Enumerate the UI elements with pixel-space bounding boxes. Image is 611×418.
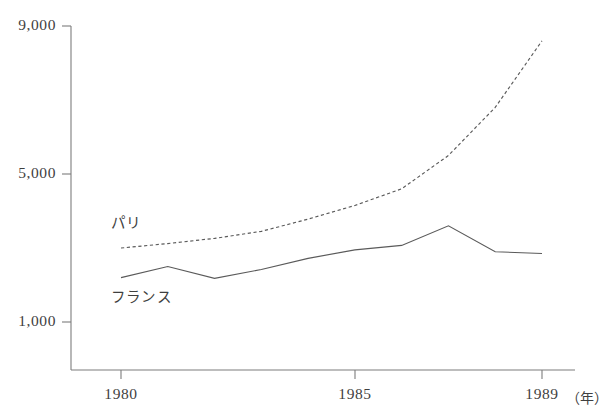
- series-label-france: フランス: [111, 285, 172, 306]
- x-tick-label-1980: 1980: [81, 385, 161, 403]
- y-tick-label-9000: 9,000: [0, 16, 56, 34]
- line-chart: 9,000 5,000 1,000 1980 1985 1989 （年） パリ …: [0, 0, 611, 418]
- series-label-paris: パリ: [111, 211, 141, 232]
- chart-plot-area: [0, 0, 611, 418]
- y-tick-label-5000: 5,000: [0, 164, 56, 182]
- x-tick-label-1985: 1985: [315, 385, 395, 403]
- series-line-france: [121, 226, 542, 279]
- x-axis-unit-label: （年）: [566, 387, 608, 407]
- y-tick-label-1000: 1,000: [0, 312, 56, 330]
- series-line-paris: [121, 41, 542, 248]
